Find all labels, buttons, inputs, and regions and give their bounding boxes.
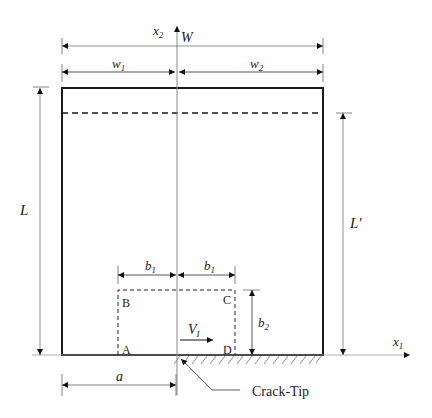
- x2-axis-label: x2: [152, 23, 164, 40]
- w-label: W: [181, 30, 194, 45]
- corner-a-label: A: [122, 343, 131, 357]
- x1-axis-label: x1: [392, 334, 403, 351]
- velocity-label: VI: [188, 322, 201, 339]
- crack-tip-label: Crack-Tip: [252, 384, 309, 399]
- b1-right-label: b1: [204, 258, 215, 275]
- a-label: a: [116, 369, 123, 384]
- b1-left-label: b1: [145, 258, 156, 275]
- hatch-boundary: [174, 356, 321, 364]
- l-label: L: [19, 202, 28, 218]
- b2-label: b2: [258, 315, 270, 332]
- corner-c-label: C: [223, 293, 231, 307]
- fracture-diagram: x2 x1 W w1 w2 L L′ A B C D b1 b1 b2 VI: [0, 0, 432, 418]
- lprime-label: L′: [349, 215, 362, 231]
- w1-label: w1: [112, 56, 125, 73]
- corner-b-label: B: [122, 296, 130, 310]
- corner-d-label: D: [223, 343, 232, 357]
- plate-outline: [62, 88, 323, 355]
- w2-label: w2: [250, 56, 264, 73]
